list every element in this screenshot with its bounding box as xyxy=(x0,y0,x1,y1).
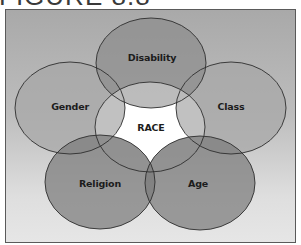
label-disability: Disability xyxy=(128,52,177,63)
label-race: RACE xyxy=(137,122,164,133)
label-age: Age xyxy=(188,178,208,189)
label-religion: Religion xyxy=(79,178,121,189)
label-class: Class xyxy=(218,101,245,112)
label-gender: Gender xyxy=(51,101,89,112)
